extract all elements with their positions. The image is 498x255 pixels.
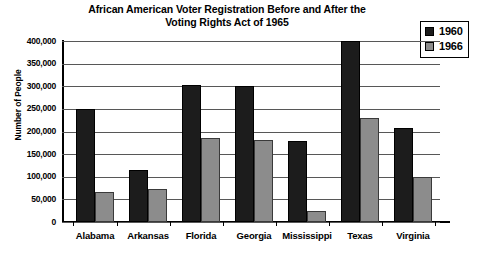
x-axis-tick: [117, 222, 118, 226]
y-axis-tick-label: 300,000: [4, 82, 56, 91]
bar-alabama-1966: [95, 192, 114, 222]
bar-texas-1960: [341, 41, 360, 222]
chart-title-line-2: Voting Rights Act of 1965: [52, 16, 402, 29]
bar-arkansas-1966: [148, 189, 167, 222]
x-axis-tick: [276, 222, 277, 226]
bar-alabama-1960: [76, 109, 95, 222]
bar-arkansas-1960: [129, 170, 148, 222]
legend-label-1966: 1966: [439, 41, 463, 52]
plot-area: [62, 41, 440, 222]
gridline: [62, 41, 440, 42]
chart-title-line-1: African American Voter Registration Befo…: [52, 3, 402, 16]
bar-chart-figure: African American Voter Registration Befo…: [0, 0, 498, 255]
y-axis-tick-label: 0: [4, 218, 56, 227]
y-axis-tick-label: 200,000: [4, 127, 56, 136]
x-axis-tick: [329, 222, 330, 226]
y-axis-tick-label: 400,000: [4, 37, 56, 46]
legend-swatch-1960: [425, 27, 434, 36]
bar-virginia-1966: [413, 177, 432, 222]
legend-item-1960: 1960: [425, 24, 463, 39]
bar-georgia-1966: [254, 140, 273, 222]
y-axis-tick-label: 350,000: [4, 59, 56, 68]
bar-texas-1966: [360, 118, 379, 222]
y-axis-tick-label: 50,000: [4, 195, 56, 204]
x-axis-tick: [170, 222, 171, 226]
chart-title: African American Voter Registration Befo…: [52, 3, 402, 28]
y-axis-tick-label: 100,000: [4, 172, 56, 181]
bar-virginia-1960: [394, 128, 413, 222]
bar-georgia-1960: [235, 86, 254, 222]
y-axis-tick-label: 150,000: [4, 150, 56, 159]
bar-florida-1966: [201, 138, 220, 222]
bar-mississippi-1966: [307, 211, 326, 222]
gridline: [62, 222, 440, 223]
y-axis-tick-label: 250,000: [4, 104, 56, 113]
x-axis-label-virginia: Virginia: [382, 230, 444, 241]
x-axis-tick: [382, 222, 383, 226]
x-axis-tick: [223, 222, 224, 226]
legend-label-1960: 1960: [439, 26, 463, 37]
x-axis-tick: [435, 222, 436, 226]
gridline: [62, 64, 440, 65]
bar-mississippi-1960: [288, 141, 307, 222]
x-axis-tick: [73, 222, 74, 226]
bar-florida-1960: [182, 85, 201, 222]
